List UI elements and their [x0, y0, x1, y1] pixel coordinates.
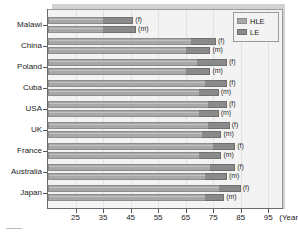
bar-segment-le [213, 143, 235, 150]
bar-sex-label: (m) [229, 171, 240, 181]
y-axis-tick [43, 193, 47, 194]
bar-row: (m) [48, 110, 282, 117]
bar-segment-le [103, 17, 133, 24]
bar-segment-hle [48, 143, 213, 150]
bar-segment-hle [48, 152, 199, 159]
bar-row: (m) [48, 152, 282, 159]
x-axis-tick-label: 65 [176, 213, 196, 223]
y-axis-tick [43, 88, 47, 89]
bar-segment-hle [48, 164, 210, 171]
bar-row: (f) [48, 143, 282, 150]
bar-sex-label: (f) [237, 141, 244, 151]
y-axis-label-japan: Japan [20, 188, 42, 197]
legend-label-le: LE [250, 28, 259, 37]
legend-item-hle: HLE [237, 16, 276, 26]
bar-row: (m) [48, 89, 282, 96]
bar-segment-le [208, 101, 227, 108]
bar-segment-le [208, 122, 230, 129]
bar-segment-hle [48, 59, 197, 66]
bar-segment-hle [48, 38, 191, 45]
bar-sex-label: (m) [223, 150, 234, 160]
bar-segment-le [197, 59, 227, 66]
bar-row: (m) [48, 131, 282, 138]
bar-sex-label: (m) [223, 129, 234, 139]
x-axis-tick-label: 85 [231, 213, 251, 223]
bar-sex-label: (m) [221, 87, 232, 97]
legend-swatch-hle-icon [237, 18, 247, 24]
x-axis-tick-label: 25 [66, 213, 86, 223]
bar-segment-le [186, 68, 211, 75]
bar-segment-le [205, 80, 227, 87]
y-axis-tick [43, 109, 47, 110]
y-axis-tick [43, 172, 47, 173]
bar-row: (f) [48, 101, 282, 108]
bar-row: (f) [48, 59, 282, 66]
bar-segment-le [219, 185, 241, 192]
bar-segment-hle [48, 17, 103, 24]
y-axis-line [47, 9, 48, 209]
bar-segment-hle [48, 185, 219, 192]
y-axis-tick [43, 130, 47, 131]
bar-sex-label: (f) [229, 57, 236, 67]
bar-segment-le [205, 173, 227, 180]
bar-segment-hle [48, 131, 202, 138]
bar-segment-le [191, 38, 216, 45]
y-axis-label-cuba: Cuba [23, 83, 42, 92]
y-axis-tick [43, 151, 47, 152]
x-axis-tick-label: 75 [203, 213, 223, 223]
y-axis-label-poland: Poland [17, 62, 42, 71]
bar-row: (f) [48, 185, 282, 192]
bar-row: (m) [48, 194, 282, 201]
bar-sex-label: (m) [138, 24, 149, 34]
bar-segment-le [205, 194, 224, 201]
bar-segment-hle [48, 101, 208, 108]
legend-item-le: LE [237, 27, 276, 37]
bar-row: (m) [48, 47, 282, 54]
legend-swatch-le-icon [237, 29, 247, 35]
bar-segment-le [199, 110, 218, 117]
bar-segment-hle [48, 26, 103, 33]
x-axis-line [47, 208, 283, 209]
y-axis-label-france: France [17, 146, 42, 155]
bar-row: (f) [48, 80, 282, 87]
legend-label-hle: HLE [250, 17, 265, 26]
x-axis-title: (Years) [279, 213, 298, 223]
bar-segment-hle [48, 89, 199, 96]
bar-segment-le [210, 164, 235, 171]
y-axis-label-malawi: Malawi [17, 20, 42, 29]
bar-segment-le [202, 131, 221, 138]
bar-segment-le [199, 152, 221, 159]
bar-row: (m) [48, 173, 282, 180]
bar-segment-le [199, 89, 218, 96]
bar-row: (m) [48, 68, 282, 75]
y-axis-tick [43, 25, 47, 26]
bar-segment-hle [48, 68, 186, 75]
bar-segment-hle [48, 194, 205, 201]
chart-container: (f)(m)(f)(m)(f)(m)(f)(m)(f)(m)(f)(m)(f)(… [0, 0, 298, 233]
bar-segment-hle [48, 173, 205, 180]
bar-sex-label: (m) [212, 66, 223, 76]
bar-sex-label: (m) [212, 45, 223, 55]
bar-segment-le [186, 47, 211, 54]
y-axis-label-uk: UK [31, 125, 42, 134]
y-axis-tick [43, 46, 47, 47]
y-axis-label-australia: Australia [11, 167, 42, 176]
chart-legend: HLE LE [233, 12, 279, 42]
bar-row: (f) [48, 122, 282, 129]
bar-segment-hle [48, 122, 208, 129]
bar-segment-hle [48, 110, 199, 117]
x-axis-tick-label: 35 [93, 213, 113, 223]
bar-row: (f) [48, 164, 282, 171]
x-axis-tick-label: 95 [258, 213, 278, 223]
bar-segment-hle [48, 47, 186, 54]
bar-sex-label: (f) [243, 183, 250, 193]
caption-divider [6, 228, 22, 229]
bar-segment-le [103, 26, 136, 33]
bar-sex-label: (m) [221, 108, 232, 118]
bar-segment-hle [48, 80, 205, 87]
bar-sex-label: (m) [226, 192, 237, 202]
y-axis-label-china: China [21, 41, 42, 50]
x-axis-tick-label: 55 [148, 213, 168, 223]
x-axis-tick-label: 45 [121, 213, 141, 223]
y-axis-tick [43, 67, 47, 68]
